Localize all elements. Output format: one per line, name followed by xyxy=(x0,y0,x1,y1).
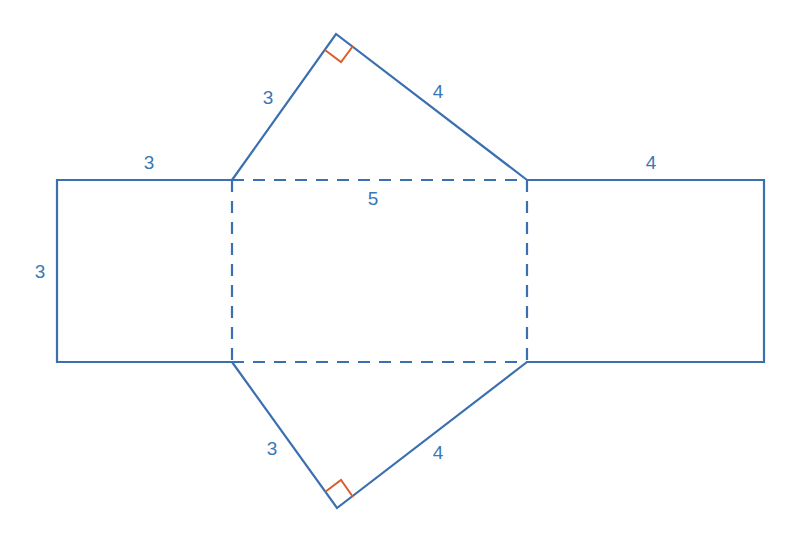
label-middle-top: 5 xyxy=(368,188,379,210)
label-bottom-tri-left: 3 xyxy=(267,438,278,460)
label-top-tri-left: 3 xyxy=(263,87,274,109)
label-top-tri-right: 4 xyxy=(433,81,444,103)
right-rectangle xyxy=(527,180,764,362)
label-right-rect-top: 4 xyxy=(646,152,657,174)
label-bottom-tri-right: 4 xyxy=(433,442,444,464)
top-triangle xyxy=(232,34,527,180)
right-angle-marker-bottom xyxy=(325,480,353,497)
dashed-fold-lines xyxy=(232,180,527,362)
right-angle-marker-top xyxy=(325,46,353,62)
prism-net-diagram xyxy=(0,0,785,535)
bottom-triangle xyxy=(232,362,527,508)
left-rectangle xyxy=(57,180,232,362)
label-left-rect-side: 3 xyxy=(35,261,46,283)
label-left-rect-top: 3 xyxy=(144,152,155,174)
